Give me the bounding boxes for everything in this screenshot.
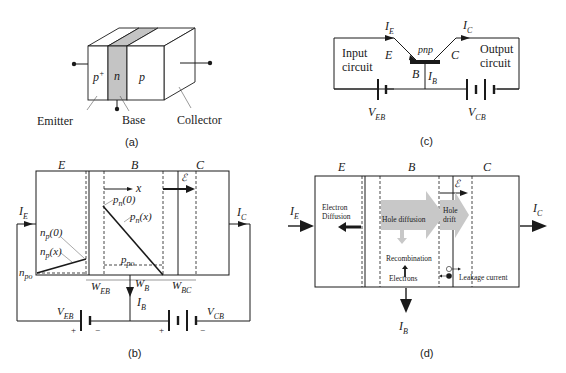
ic-arrow-icon bbox=[532, 220, 547, 232]
base-terminal-dot bbox=[115, 107, 119, 111]
ie-label: IE bbox=[18, 204, 28, 221]
vcb-minus: − bbox=[200, 325, 205, 335]
terminal-e-label: E bbox=[384, 48, 393, 62]
vcb-plus: + bbox=[159, 325, 164, 335]
ie-label: IE bbox=[384, 19, 394, 36]
pn0-label: pn(0) bbox=[112, 193, 136, 208]
hole-carrier-icon bbox=[446, 266, 451, 271]
wb-label: WB bbox=[135, 277, 149, 293]
region-p-label: p bbox=[138, 70, 145, 84]
base-bar bbox=[410, 60, 440, 64]
input-circuit-label-1: Input bbox=[342, 46, 368, 60]
veb-label: VEB bbox=[368, 105, 385, 122]
region-n-label: n bbox=[114, 69, 120, 83]
electrons-label: Electrons bbox=[389, 274, 417, 283]
vcb-label: VCB bbox=[207, 305, 224, 321]
field-arrowhead-icon bbox=[460, 190, 468, 196]
region-e-label: E bbox=[57, 158, 66, 172]
electron-diffusion-label-2: Diffusion bbox=[322, 212, 351, 221]
ib-label: IB bbox=[427, 69, 437, 86]
hole-diffusion-label: Hole diffusion bbox=[382, 215, 426, 224]
ib-arrow-icon bbox=[400, 299, 412, 313]
x-axis-label: x bbox=[135, 181, 142, 195]
pnx-label: pn(x) bbox=[129, 210, 152, 225]
region-e-label: E bbox=[337, 160, 346, 174]
field-label: ℰ bbox=[454, 178, 461, 189]
ie-label: IE bbox=[289, 204, 299, 221]
panel-d: E B C ℰ Hole diffusion Hole drift Electr… bbox=[288, 160, 547, 359]
ppo-label: ppo bbox=[120, 253, 135, 268]
ib-label: IB bbox=[136, 295, 146, 312]
vcb-label: VCB bbox=[468, 105, 486, 122]
leakage-current-label: Leakage current bbox=[459, 273, 508, 282]
collector-pointer bbox=[179, 87, 191, 108]
hole-leak-arrowhead-icon bbox=[458, 268, 461, 271]
panel-a: p+ n p Emitter Base Collector (a) bbox=[37, 28, 222, 148]
front-p bbox=[127, 46, 164, 100]
emitter-label: Emitter bbox=[37, 114, 73, 128]
panel-b: E B C x ℰ pn(0) pn(x) ppo np(0) np(x) bbox=[17, 158, 250, 359]
bjt-figure: p+ n p Emitter Base Collector (a) bbox=[0, 0, 566, 373]
terminal-b-label: B bbox=[412, 67, 420, 81]
npx-pointer bbox=[61, 253, 72, 262]
ib-label: IB bbox=[398, 319, 408, 336]
electron-diffusion-arrow-icon bbox=[338, 222, 346, 232]
field-label: ℰ bbox=[181, 172, 188, 183]
hole-drift-label-1: Hole bbox=[443, 206, 458, 215]
region-c-label: C bbox=[483, 160, 492, 174]
ib-arrow-icon bbox=[126, 287, 134, 297]
ic-label: IC bbox=[532, 201, 543, 218]
ie-arrow-icon bbox=[24, 221, 33, 227]
np0-label: np(0) bbox=[40, 226, 63, 241]
field-arrowhead-icon bbox=[186, 185, 195, 193]
region-c-label: C bbox=[196, 158, 205, 172]
base-label: Base bbox=[122, 113, 145, 127]
npx-label: np(x) bbox=[40, 245, 62, 260]
region-b-label: B bbox=[131, 158, 139, 172]
caption-b: (b) bbox=[128, 347, 141, 359]
panel-c: Input circuit Output circuit E B C pnp I… bbox=[334, 18, 519, 147]
veb-label: VEB bbox=[57, 305, 74, 321]
output-circuit-label-1: Output bbox=[480, 42, 514, 56]
terminal-c-label: C bbox=[451, 48, 460, 62]
collector-label: Collector bbox=[177, 113, 222, 127]
region-b-label: B bbox=[408, 160, 416, 174]
npo-label: npo bbox=[19, 266, 33, 281]
recombination-branch-arrow-icon bbox=[397, 230, 407, 244]
veb-minus: − bbox=[95, 325, 100, 335]
pnp-label: pnp bbox=[417, 44, 433, 55]
veb-plus: + bbox=[71, 325, 76, 335]
ie-arrow-icon bbox=[300, 220, 314, 232]
emitter-terminal-dot bbox=[72, 62, 76, 66]
caption-d: (d) bbox=[420, 347, 433, 359]
wbc-label: WBC bbox=[172, 279, 192, 295]
input-circuit-label-2: circuit bbox=[342, 60, 373, 74]
caption-c: (c) bbox=[420, 135, 433, 147]
ic-label: IC bbox=[236, 205, 247, 222]
electron-leak-arrowhead-icon bbox=[439, 275, 442, 278]
ic-arrow-icon bbox=[461, 35, 470, 41]
recombination-label: Recombination bbox=[386, 254, 432, 263]
hole-drift-label-2: drift bbox=[443, 215, 457, 224]
collector-terminal-dot bbox=[208, 61, 212, 65]
web-label: WEB bbox=[91, 280, 110, 296]
electrons-up-arrow-icon bbox=[402, 265, 408, 269]
emitter-wire bbox=[394, 38, 416, 60]
electron-carrier-icon bbox=[446, 273, 452, 279]
pn0-pointer bbox=[103, 200, 113, 206]
ic-label: IC bbox=[462, 18, 473, 35]
output-circuit-label-2: circuit bbox=[480, 56, 511, 70]
caption-a: (a) bbox=[125, 136, 138, 148]
np-x-profile bbox=[37, 259, 86, 273]
np0-pointer bbox=[61, 237, 84, 258]
x-arrowhead-icon bbox=[127, 187, 133, 191]
electron-diffusion-label-1: Electron bbox=[322, 203, 348, 212]
